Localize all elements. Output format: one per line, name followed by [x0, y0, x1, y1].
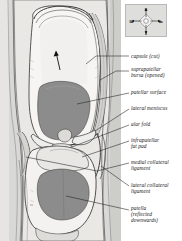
leader-suprapatellar-bursa — [100, 71, 129, 80]
leader-capsule-cut — [86, 56, 129, 64]
knee-joint-figure: S I la m capsule — [0, 0, 182, 241]
leader-lateral-meniscus — [95, 109, 129, 131]
leader-patellar-surface — [77, 93, 129, 104]
leader-patella-reflected — [66, 196, 129, 210]
leader-lines — [0, 0, 182, 241]
leader-medial-collateral-ligament — [26, 157, 129, 171]
leader-lateral-collateral-ligament — [101, 166, 129, 186]
leader-infrapatellar-fat-pad — [82, 141, 129, 157]
